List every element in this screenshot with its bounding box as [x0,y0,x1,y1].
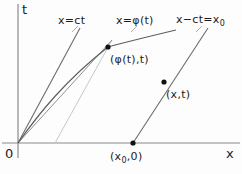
boundary-curve-label: x=φ(t) [116,14,154,27]
characteristic-label-subscript: 0 [220,19,225,28]
foot-point-label-prefix: (x [110,150,121,163]
characteristic-line [133,28,208,143]
characteristic-label-main: x−ct=x [176,13,220,26]
x-axis-label: x [226,146,234,161]
boundary-point-marker [105,44,110,49]
boundary-point-label: (φ(t),t) [110,53,149,66]
foot-point-marker [130,140,135,145]
t-axis-label: t [22,2,27,17]
interior-point-label: (x,t) [166,88,190,101]
foot-point-label: (x0,0) [110,150,142,165]
faint-characteristic-line [55,40,112,143]
spacetime-diagram: t x 0 x=ct x=φ(t) x−ct=x0 (φ(t),t) (x,t)… [0,0,242,174]
foot-point-label-suffix: ,0) [127,150,143,163]
light-cone-label: x=ct [58,14,85,27]
interior-point-marker [161,79,166,84]
boundary-curve [18,30,176,143]
characteristic-label: x−ct=x0 [176,13,225,28]
origin-label: 0 [5,146,14,161]
